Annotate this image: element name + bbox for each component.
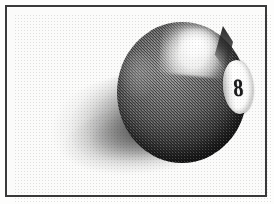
image-canvas: 8	[0, 0, 274, 204]
number-disc: 8	[220, 59, 255, 116]
artwork-area: 8	[14, 14, 272, 202]
ball-number-label: 8	[232, 74, 244, 99]
ball-specular-highlight	[179, 28, 219, 58]
ball-left-shoulder-highlight	[121, 52, 155, 98]
eight-ball: 8	[117, 22, 249, 170]
border-frame: 8	[5, 5, 267, 197]
